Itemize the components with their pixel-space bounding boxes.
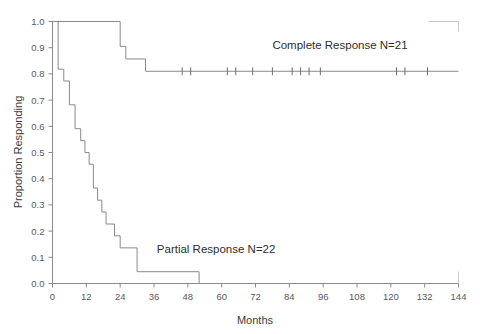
y-tick-label: 0.5 — [31, 147, 44, 158]
y-tick-label: 0.4 — [31, 173, 44, 184]
x-tick-label: 0 — [50, 291, 55, 302]
series-label-complete-response: Complete Response N=21 — [272, 39, 407, 51]
x-tick-label: 24 — [115, 291, 126, 302]
y-tick-label: 1.0 — [31, 16, 44, 27]
x-tick-label: 144 — [451, 291, 467, 302]
x-tick-label: 84 — [284, 291, 295, 302]
y-tick-label: 0.1 — [31, 252, 44, 263]
y-tick-label: 0.3 — [31, 199, 44, 210]
x-tick-label: 96 — [318, 291, 329, 302]
x-tick-label: 108 — [349, 291, 365, 302]
chart-canvas: 01224364860728496108120132144 0.00.10.20… — [0, 0, 480, 334]
x-tick-label: 60 — [216, 291, 227, 302]
y-tick-label: 0.0 — [31, 278, 44, 289]
x-tick-label: 132 — [417, 291, 433, 302]
y-tick-label: 0.9 — [31, 42, 44, 53]
x-tick-label: 12 — [81, 291, 92, 302]
y-tick-label: 0.8 — [31, 68, 44, 79]
series-label-partial-response: Partial Response N=22 — [157, 243, 276, 255]
y-axis-title: Proportion Responding — [12, 96, 24, 209]
x-tick-label: 120 — [383, 291, 399, 302]
x-axis-ticks: 01224364860728496108120132144 — [50, 284, 467, 302]
x-tick-label: 72 — [250, 291, 261, 302]
y-axis-ticks: 0.00.10.20.30.40.50.60.70.80.91.0 — [31, 16, 52, 289]
kaplan-meier-chart: 01224364860728496108120132144 0.00.10.20… — [0, 0, 480, 334]
y-tick-label: 0.2 — [31, 226, 44, 237]
x-axis-title: Months — [237, 314, 274, 326]
frame-corner-top-right — [429, 22, 459, 32]
y-tick-label: 0.7 — [31, 95, 44, 106]
y-tick-label: 0.6 — [31, 121, 44, 132]
x-tick-label: 48 — [183, 291, 194, 302]
x-tick-label: 36 — [149, 291, 160, 302]
